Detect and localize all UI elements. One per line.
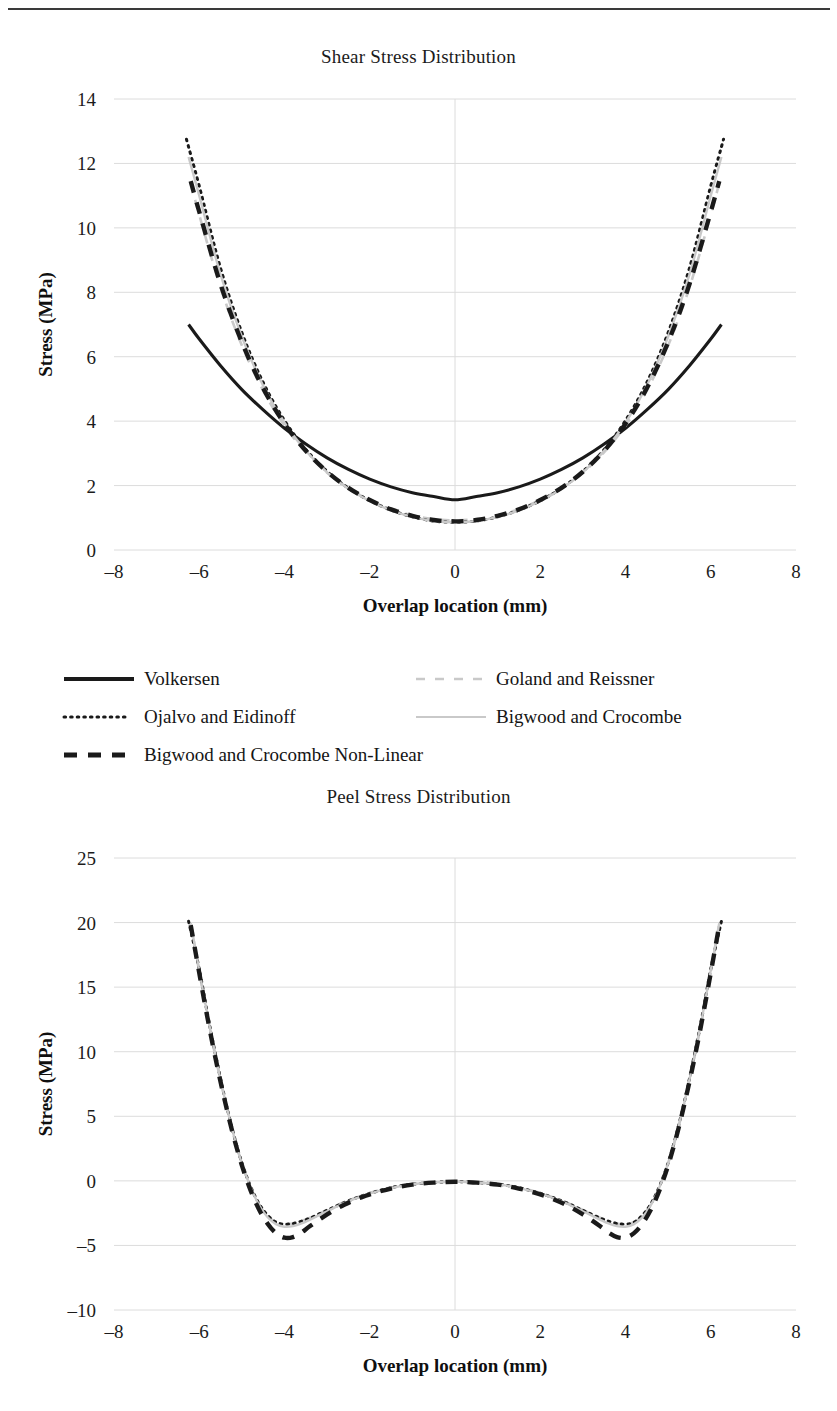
page-top-rule [8,8,830,10]
chart-legend: Volkersen Goland and Reissner Ojalvo and… [0,658,837,768]
legend-item-bigwood-and-crocombe: Bigwood and Crocombe [414,702,682,732]
shear-stress-chart: 02468101214–8–6–4–202468Overlap location… [0,78,837,638]
x-tick-label: 2 [536,1321,546,1342]
legend-label-bigwood-and-crocombe: Bigwood and Crocombe [496,706,682,728]
y-axis-title: Stress (MPa) [35,272,57,377]
shear-chart-title: Shear Stress Distribution [0,46,837,68]
legend-item-ojalvo-and-eidinoff: Ojalvo and Eidinoff [62,702,296,732]
x-tick-label: –8 [104,1321,124,1342]
legend-swatch-ojalvo-and-eidinoff [62,708,136,726]
legend-label-goland-and-reissner: Goland and Reissner [496,668,654,690]
peel-chart-title: Peel Stress Distribution [0,786,837,808]
legend-swatch-volkersen [62,670,136,688]
x-tick-label: 0 [450,1321,460,1342]
x-tick-label: 8 [791,561,801,582]
peel-chart-svg: –10–50510152025–8–6–4–202468Overlap loca… [0,818,837,1398]
x-tick-label: 6 [706,561,716,582]
x-tick-label: –4 [274,1321,295,1342]
y-tick-label: 20 [77,913,96,934]
legend-item-goland-and-reissner: Goland and Reissner [414,664,654,694]
y-tick-label: 2 [87,476,97,497]
x-tick-label: 4 [621,561,631,582]
x-tick-label: –6 [189,561,209,582]
y-tick-label: 4 [87,411,97,432]
y-tick-label: 5 [87,1106,97,1127]
peel-stress-chart: –10–50510152025–8–6–4–202468Overlap loca… [0,818,837,1398]
y-tick-label: 15 [77,977,96,998]
y-tick-label: –10 [67,1300,97,1321]
x-tick-label: –8 [104,561,124,582]
x-tick-label: 2 [536,561,546,582]
shear-chart-svg: 02468101214–8–6–4–202468Overlap location… [0,78,837,638]
legend-swatch-goland-and-reissner [414,670,488,688]
y-tick-label: 8 [87,282,97,303]
x-tick-label: 0 [450,561,460,582]
legend-item-bigwood-and-crocombe-non-linear: Bigwood and Crocombe Non-Linear [62,740,423,770]
legend-label-bigwood-and-crocombe-non-linear: Bigwood and Crocombe Non-Linear [144,744,423,766]
y-tick-label: 12 [77,153,96,174]
x-tick-label: –4 [274,561,295,582]
legend-swatch-bigwood-and-crocombe [414,708,488,726]
y-tick-label: 10 [77,1042,96,1063]
y-tick-label: 6 [87,347,97,368]
x-tick-label: –6 [189,1321,209,1342]
figure-page: Shear Stress Distribution 02468101214–8–… [0,0,837,1411]
x-tick-label: 8 [791,1321,801,1342]
x-tick-label: –2 [359,1321,379,1342]
y-tick-label: 25 [77,848,96,869]
x-tick-label: 4 [621,1321,631,1342]
x-axis-title: Overlap location (mm) [363,1355,548,1377]
y-tick-label: –5 [76,1235,96,1256]
y-axis-title: Stress (MPa) [35,1032,57,1137]
x-axis-title: Overlap location (mm) [363,595,548,617]
x-tick-label: –2 [359,561,379,582]
legend-label-volkersen: Volkersen [144,668,220,690]
y-tick-label: 0 [87,540,97,561]
y-tick-label: 14 [77,89,97,110]
y-tick-label: 0 [87,1171,97,1192]
legend-label-ojalvo-and-eidinoff: Ojalvo and Eidinoff [144,706,296,728]
x-tick-label: 6 [706,1321,716,1342]
legend-swatch-bigwood-and-crocombe-non-linear [62,746,136,764]
y-tick-label: 10 [77,218,96,239]
legend-item-volkersen: Volkersen [62,664,220,694]
